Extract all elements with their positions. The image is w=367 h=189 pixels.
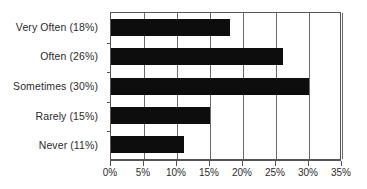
bar-row [111, 101, 340, 130]
category-label-row: Never (11%) [0, 130, 104, 160]
category-label: Never (11%) [39, 139, 98, 151]
x-axis-tick-labels: 0%5%10%15%20%25%30%35% [110, 167, 341, 183]
x-axis-tick-label: 35% [331, 167, 351, 179]
x-axis-tick [308, 161, 309, 166]
category-label: Sometimes (30%) [13, 80, 98, 92]
category-label: Very Often (18%) [16, 21, 98, 33]
x-axis-tick [209, 161, 210, 166]
x-axis-tick [341, 161, 342, 166]
bar-series [111, 13, 340, 159]
x-axis [110, 160, 341, 166]
x-axis-tick-label: 5% [136, 167, 150, 179]
x-axis-tick-label: 15% [199, 167, 219, 179]
x-axis-tick-label: 25% [265, 167, 285, 179]
category-label-row: Often (26%) [0, 42, 104, 72]
bar-row [111, 130, 340, 159]
bar-chart: Very Often (18%) Often (26%) Sometimes (… [0, 0, 367, 189]
x-axis-tick-label: 0% [103, 167, 117, 179]
bar [111, 19, 230, 36]
category-label-row: Sometimes (30%) [0, 71, 104, 101]
bar [111, 78, 309, 95]
category-label: Rarely (15%) [36, 110, 98, 122]
category-label: Often (26%) [40, 50, 98, 62]
x-axis-tick [275, 161, 276, 166]
bar [111, 48, 283, 65]
gridline [342, 13, 343, 159]
category-axis-labels: Very Often (18%) Often (26%) Sometimes (… [0, 12, 104, 160]
x-axis-tick-label: 10% [166, 167, 186, 179]
bar [111, 107, 210, 124]
x-axis-tick [176, 161, 177, 166]
x-axis-tick-label: 30% [298, 167, 318, 179]
category-label-row: Rarely (15%) [0, 101, 104, 131]
bar-row [111, 13, 340, 42]
bar-row [111, 71, 340, 100]
x-axis-tick-label: 20% [232, 167, 252, 179]
x-axis-tick [143, 161, 144, 166]
bar-row [111, 42, 340, 71]
category-label-row: Very Often (18%) [0, 12, 104, 42]
x-axis-tick [110, 161, 111, 166]
bar [111, 136, 184, 153]
x-axis-tick [242, 161, 243, 166]
plot-area [110, 12, 341, 160]
